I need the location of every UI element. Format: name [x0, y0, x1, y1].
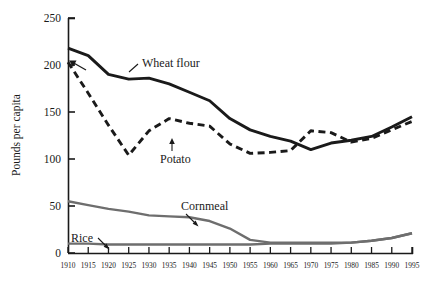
x-tick-label: 1955 [243, 261, 258, 270]
chart-axes [68, 18, 413, 254]
y-tick-label: 50 [50, 200, 62, 212]
series-line-cornmeal [68, 201, 412, 242]
x-tick-label: 1985 [364, 261, 379, 270]
x-tick-label: 1960 [263, 261, 278, 270]
x-tick-label: 1940 [182, 261, 197, 270]
x-tick-label: 1910 [61, 261, 76, 270]
x-tick-label: 1950 [222, 261, 237, 270]
series-line-wheat-flour [68, 48, 412, 150]
y-tick-label: 200 [44, 59, 62, 71]
x-tick-label: 1925 [121, 261, 136, 270]
series-group [68, 48, 412, 244]
y-tick-label: 150 [44, 106, 62, 118]
y-axis-label: Pounds per capita [10, 94, 23, 176]
x-tick-label: 1945 [202, 261, 217, 270]
chart-container: 050100150200250 191019151920192519301935… [0, 0, 444, 293]
x-tick-label: 1915 [81, 261, 96, 270]
x-tick-label: 1990 [384, 261, 399, 270]
x-tick-label: 1930 [142, 261, 157, 270]
y-tick-label: 100 [44, 153, 62, 165]
annotation-leader-wheat-flour [129, 64, 138, 72]
line-chart: 050100150200250 191019151920192519301935… [0, 0, 444, 293]
annotation-label-potato: Potato [160, 152, 191, 166]
x-tick-label: 1980 [344, 261, 359, 270]
y-tick-label: 0 [55, 247, 61, 259]
x-tick-label: 1975 [324, 261, 339, 270]
annotation-arrow-potato [169, 138, 175, 144]
x-tick-label: 1970 [303, 261, 318, 270]
x-tick-group: 1910191519201925193019351940194519501955… [61, 247, 420, 270]
annotation-label-rice: Rice [71, 231, 93, 245]
x-tick-label: 1935 [162, 261, 177, 270]
x-tick-label: 1965 [283, 261, 298, 270]
annotation-label-wheat-flour: Wheat flour [142, 56, 200, 70]
x-tick-label: 1995 [405, 261, 420, 270]
annotation-label-cornmeal: Cornmeal [181, 199, 229, 213]
x-tick-label: 1920 [101, 261, 116, 270]
y-tick-label: 250 [44, 12, 62, 24]
